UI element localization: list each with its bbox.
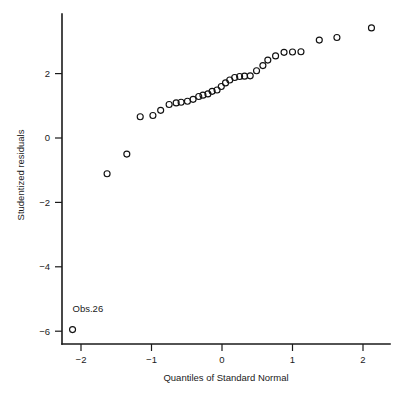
y-tick-label: −2 xyxy=(39,197,50,208)
x-axis-ticks: −2−1012 xyxy=(76,344,366,365)
data-point xyxy=(265,57,271,63)
point-annotation-label: Obs.26 xyxy=(73,303,104,314)
x-tick-label: 1 xyxy=(290,354,295,365)
x-tick-label: 0 xyxy=(219,354,224,365)
data-point xyxy=(104,171,110,177)
data-point xyxy=(223,80,229,86)
qq-plot-figure: 20−2−4−6 −2−1012 Obs.26 Quantiles of Sta… xyxy=(0,0,398,401)
y-axis-title: Studentized residuals xyxy=(15,129,26,220)
data-point xyxy=(316,37,322,43)
data-point xyxy=(273,53,279,59)
data-point xyxy=(281,49,287,55)
y-axis-ticks: 20−2−4−6 xyxy=(39,68,62,337)
data-point xyxy=(290,49,296,55)
x-tick-label: −2 xyxy=(76,354,87,365)
qq-plot-canvas: 20−2−4−6 −2−1012 Obs.26 Quantiles of Sta… xyxy=(0,0,398,401)
y-tick-label: −4 xyxy=(39,261,50,272)
data-point xyxy=(260,63,266,69)
x-tick-label: −1 xyxy=(146,354,157,365)
data-point xyxy=(150,112,156,118)
data-point xyxy=(166,102,172,108)
data-point xyxy=(137,114,143,120)
point-annotations-group: Obs.26 xyxy=(73,303,104,314)
data-point xyxy=(158,107,164,113)
data-point xyxy=(190,96,196,102)
data-point xyxy=(70,327,76,333)
data-point xyxy=(124,151,130,157)
y-tick-label: −6 xyxy=(39,326,50,337)
data-point xyxy=(334,35,340,41)
data-point xyxy=(298,49,304,55)
x-axis-title: Quantiles of Standard Normal xyxy=(163,372,288,383)
scatter-points-group xyxy=(70,25,375,333)
x-tick-label: 2 xyxy=(360,354,365,365)
data-point xyxy=(368,25,374,31)
y-tick-label: 2 xyxy=(45,68,50,79)
y-tick-label: 0 xyxy=(45,132,50,143)
data-point xyxy=(254,68,260,74)
